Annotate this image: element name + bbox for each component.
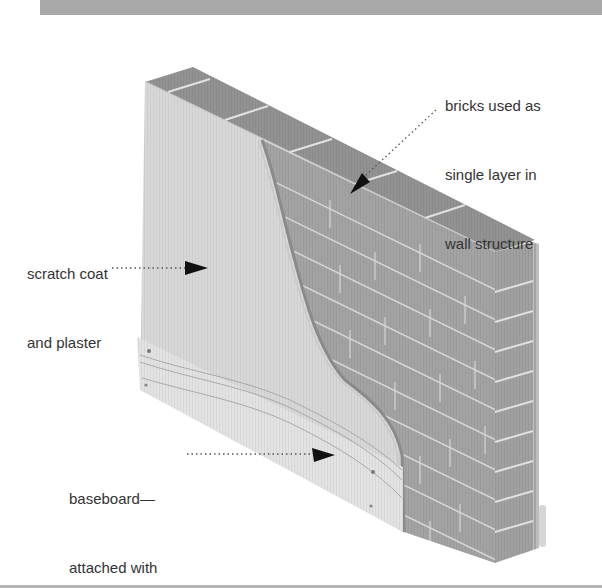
label-bricks: bricks used as single layer in wall stru… <box>445 48 541 278</box>
masonry-nail <box>147 349 151 353</box>
label-baseboard: baseboard— attached with masonry nails <box>69 441 162 588</box>
label-line: bricks used as <box>445 94 541 117</box>
label-line: and plaster <box>27 331 108 354</box>
label-line: scratch coat <box>27 262 108 285</box>
masonry-nail <box>371 470 375 474</box>
label-line: single layer in <box>445 163 541 186</box>
masonry-nail <box>144 383 147 386</box>
label-line: attached with <box>69 556 162 579</box>
masonry-nail <box>369 504 372 507</box>
label-line: wall structure <box>445 232 541 255</box>
wall-end-face <box>495 242 546 563</box>
label-plaster: scratch coat and plaster <box>27 216 108 377</box>
label-line: baseboard— <box>69 487 162 510</box>
